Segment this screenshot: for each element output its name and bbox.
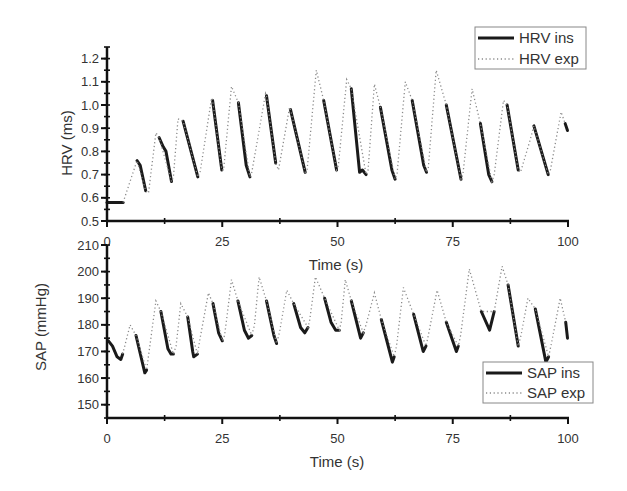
hrv-ins-segment xyxy=(137,161,146,191)
hrv-y-tick-label: 1.0 xyxy=(81,98,99,113)
hrv-legend-exp-label: HRV exp xyxy=(519,50,579,67)
hrv-legend: HRV ins HRV exp xyxy=(475,27,586,69)
hrv-legend-ins-label: HRV ins xyxy=(519,29,574,46)
sap-y-tick-label: 180 xyxy=(77,317,99,332)
sap-ins-segment xyxy=(351,301,363,338)
sap-x-tick-label: 100 xyxy=(557,431,579,446)
sap-ins-segment xyxy=(267,301,277,344)
hrv-y-tick-label: 1.1 xyxy=(81,74,99,89)
hrv-y-tick-label: 0.8 xyxy=(81,144,99,159)
sap-ins-segment xyxy=(566,322,568,338)
hrv-panel: 0.50.60.70.80.91.01.11.20255075100 HRV (… xyxy=(58,27,586,273)
hrv-y-tick-label: 1.2 xyxy=(81,51,99,66)
sap-x-tick-label: 0 xyxy=(103,431,110,446)
hrv-x-axis-title: Time (s) xyxy=(309,256,363,273)
sap-ins-segment xyxy=(481,312,494,331)
sap-y-tick-label: 170 xyxy=(77,344,99,359)
hrv-y-tick-label: 0.5 xyxy=(81,214,99,229)
hrv-y-tick-label: 0.6 xyxy=(81,190,99,205)
sap-x-tick-label: 50 xyxy=(330,431,344,446)
sap-y-tick-label: 150 xyxy=(77,397,99,412)
hrv-ins-segment xyxy=(291,110,306,173)
hrv-y-axis-title: HRV (ms) xyxy=(58,110,75,176)
sap-y-tick-label: 190 xyxy=(77,291,99,306)
sap-legend-exp-label: SAP exp xyxy=(527,384,585,401)
sap-plot-area xyxy=(108,266,567,373)
hrv-x-tick-label: 100 xyxy=(557,234,579,249)
sap-x-axis-title: Time (s) xyxy=(310,453,364,470)
sap-legend-ins-label: SAP ins xyxy=(527,364,580,381)
sap-ins-segment xyxy=(446,322,458,351)
chart-figure: 0.50.60.70.80.91.01.11.20255075100 HRV (… xyxy=(0,0,627,491)
hrv-x-tick-label: 50 xyxy=(330,234,344,249)
sap-legend: SAP ins SAP exp xyxy=(483,362,593,403)
hrv-axes: 0.50.60.70.80.91.01.11.20255075100 xyxy=(81,47,579,249)
sap-ins-segment xyxy=(188,317,198,357)
sap-ins-segment xyxy=(535,309,548,362)
sap-y-axis-title: SAP (mmHg) xyxy=(32,283,49,371)
sap-ins-segment xyxy=(238,301,252,338)
sap-x-tick-label: 25 xyxy=(215,431,229,446)
sap-x-tick-label: 75 xyxy=(446,431,460,446)
hrv-exp-line xyxy=(123,70,565,202)
sap-y-tick-label: 200 xyxy=(77,264,99,279)
sap-y-tick-label: 160 xyxy=(77,371,99,386)
hrv-ins-segment xyxy=(565,124,567,131)
sap-y-tick-label: 210 xyxy=(77,238,99,253)
hrv-x-tick-label: 75 xyxy=(446,234,460,249)
hrv-y-tick-label: 0.7 xyxy=(81,167,99,182)
hrv-y-tick-label: 0.9 xyxy=(81,121,99,136)
sap-ins-segment xyxy=(108,341,122,360)
hrv-x-tick-label: 25 xyxy=(215,234,229,249)
hrv-plot-area xyxy=(107,70,568,202)
